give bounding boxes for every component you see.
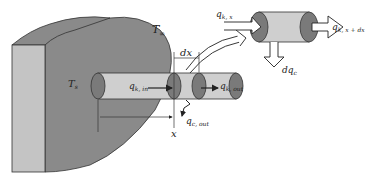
q-c-out-label: qc, out — [186, 116, 209, 127]
t-inf-label: T∞ — [152, 23, 165, 38]
dx-label: dx — [180, 47, 192, 58]
dq-c-label: dqc — [282, 65, 298, 76]
wall-side — [12, 45, 45, 172]
fin-heat-transfer-diagram: T∞ Ts dx x qk, in qk, out qc, out qk, x … — [0, 0, 375, 180]
fin-section-x-dx — [192, 73, 206, 99]
q-c-out-arrow — [182, 100, 190, 116]
x-label: x — [171, 128, 177, 139]
q-k-x-dx-label: qk, x + dx — [332, 22, 365, 33]
dq-c-hollow-arrow — [264, 42, 284, 67]
q-k-x-label: qk, x — [216, 9, 233, 20]
fin-base-cap — [91, 73, 105, 99]
zoom-callout-arrow — [186, 30, 246, 73]
